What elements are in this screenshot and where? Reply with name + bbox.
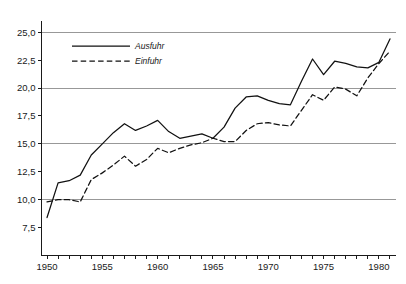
x-axis-tick-label: 1955	[92, 261, 113, 272]
y-axis-tick-label: 25,0	[17, 27, 36, 38]
y-axis-tick-label: 20,0	[17, 82, 36, 93]
axes	[42, 21, 396, 256]
chart-legend: AusfuhrEinfuhr	[72, 41, 165, 66]
chart-container: 7,510,012,515,017,520,022,525,0 19501955…	[0, 0, 406, 284]
x-axis-tick-label: 1960	[147, 261, 168, 272]
x-axis-tick-label: 1965	[202, 261, 223, 272]
x-axis-tick-labels: 1950195519601965197019751980	[36, 261, 389, 272]
series-line-ausfuhr	[47, 39, 390, 218]
y-axis-tick-label: 15,0	[17, 138, 36, 149]
data-series	[47, 39, 390, 218]
x-axis-tick-label: 1970	[258, 261, 279, 272]
y-axis-tick-labels: 7,510,012,515,017,520,022,525,0	[17, 27, 36, 233]
gridlines	[42, 32, 396, 199]
y-axis-tick-label: 7,5	[22, 222, 35, 233]
x-axis-tick-label: 1980	[368, 261, 389, 272]
y-axis-tick-label: 17,5	[17, 110, 36, 121]
y-axis-tick-label: 22,5	[17, 55, 36, 66]
x-axis-tick-label: 1950	[36, 261, 57, 272]
line-chart: 7,510,012,515,017,520,022,525,0 19501955…	[0, 0, 406, 284]
legend-label-einfuhr: Einfuhr	[135, 56, 163, 66]
y-axis-tick-label: 10,0	[17, 194, 36, 205]
y-axis-tick-label: 12,5	[17, 166, 36, 177]
x-axis-tick-label: 1975	[313, 261, 334, 272]
legend-label-ausfuhr: Ausfuhr	[134, 41, 165, 51]
series-line-einfuhr	[47, 51, 390, 202]
